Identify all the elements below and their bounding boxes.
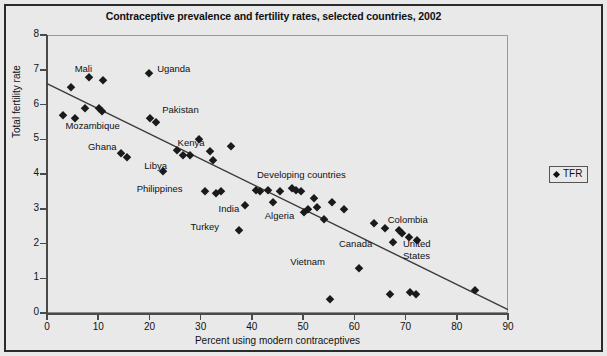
- y-axis-tick-label: 7: [19, 63, 39, 74]
- point-label: United: [403, 239, 430, 249]
- x-axis-tick: [354, 314, 356, 320]
- x-axis-tick-label: 40: [237, 321, 267, 332]
- x-axis-tick-label: 20: [134, 321, 164, 332]
- x-axis-tick-label: 80: [442, 321, 472, 332]
- chart-card: Contraceptive prevalence and fertility r…: [18, 10, 529, 340]
- point-label: Uganda: [157, 64, 190, 74]
- chart-figure: Contraceptive prevalence and fertility r…: [0, 0, 607, 356]
- y-axis-tick: [40, 208, 47, 210]
- x-axis-tick-label: 50: [288, 321, 318, 332]
- y-axis-tick: [40, 243, 47, 245]
- y-axis-tick-label: 6: [19, 98, 39, 109]
- y-axis-tick-label: 8: [19, 28, 39, 39]
- legend-entry-label: TFR: [563, 169, 582, 179]
- legend[interactable]: TFR: [549, 166, 588, 183]
- point-label: Philippines: [137, 184, 183, 194]
- point-label: Pakistan: [162, 105, 198, 115]
- x-axis-tick-label: 90: [493, 321, 523, 332]
- y-axis-title: Total fertility rate: [11, 65, 22, 138]
- y-axis-tick: [40, 139, 47, 141]
- point-label: Mozambique: [65, 121, 119, 131]
- point-label: Ghana: [88, 142, 117, 152]
- x-axis-tick: [251, 314, 253, 320]
- point-label: Colombia: [388, 215, 428, 225]
- point-label: India: [219, 204, 240, 214]
- chart-title: Contraceptive prevalence and fertility r…: [18, 10, 529, 22]
- x-axis-tick-label: 0: [32, 321, 62, 332]
- point-label: Developing countries: [257, 170, 346, 180]
- point-label: Kenya: [178, 138, 205, 148]
- x-axis-tick: [200, 314, 202, 320]
- x-axis-tick-label: 60: [339, 321, 369, 332]
- x-axis-line: [46, 313, 509, 315]
- x-axis-tick: [456, 314, 458, 320]
- point-label: Algeria: [265, 211, 295, 221]
- y-axis-tick: [40, 104, 47, 106]
- y-axis-tick: [40, 278, 47, 280]
- point-label: Turkey: [190, 222, 219, 232]
- x-axis-tick: [302, 314, 304, 320]
- y-axis-tick: [40, 173, 47, 175]
- x-axis-title: Percent using modern contraceptives: [47, 335, 508, 346]
- point-label: Libya: [144, 161, 167, 171]
- x-axis-tick-label: 10: [83, 321, 113, 332]
- y-axis-tick-label: 1: [19, 271, 39, 282]
- y-axis-tick: [40, 69, 47, 71]
- point-label: Mali: [75, 64, 92, 74]
- diamond-marker-icon: [553, 170, 560, 177]
- y-axis-tick-label: 5: [19, 132, 39, 143]
- x-axis-tick-label: 30: [186, 321, 216, 332]
- x-axis-tick: [507, 314, 509, 320]
- point-label: Vietnam: [290, 257, 325, 267]
- y-axis-tick-label: 2: [19, 237, 39, 248]
- y-axis-tick: [40, 34, 47, 36]
- point-label: States: [403, 251, 430, 261]
- x-axis-tick: [46, 314, 48, 320]
- y-axis-tick-label: 3: [19, 202, 39, 213]
- y-axis-tick-label: 0: [19, 306, 39, 317]
- x-axis-tick: [405, 314, 407, 320]
- y-axis-tick-label: 4: [19, 167, 39, 178]
- point-label: Canada: [339, 239, 372, 249]
- x-axis-tick: [97, 314, 99, 320]
- x-axis-tick-label: 70: [391, 321, 421, 332]
- x-axis-tick: [149, 314, 151, 320]
